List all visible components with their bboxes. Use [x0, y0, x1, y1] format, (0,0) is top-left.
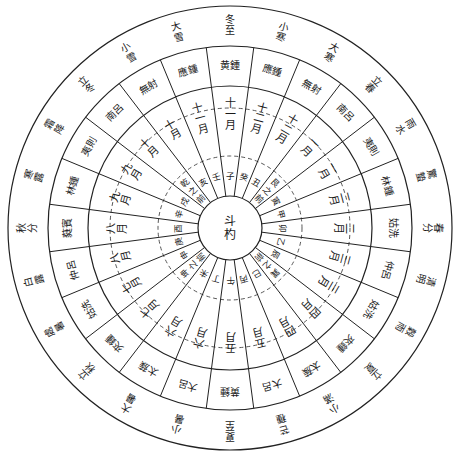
direction-label: 丁	[211, 273, 222, 285]
pitch-pipe-label: 應鍾	[176, 62, 198, 79]
month-label: 六月	[192, 325, 209, 351]
month-label-char: 月	[327, 249, 342, 263]
pitch-pipe-label: 夷則	[78, 135, 98, 158]
pitch-pipe-label-text: 林鍾	[64, 174, 81, 196]
solar-terms-wheel-diagram: 冬至小寒大寒立春雨水驚蟄春分清明穀雨立夏小滿芒種夏至小暑大暑立秋處暑白露秋分寒露…	[0, 0, 461, 455]
solar-term-label: 寒露	[21, 168, 46, 184]
month-label: 二月	[327, 190, 353, 207]
month-label-char: 月	[332, 223, 345, 234]
solar-term-label: 立夏	[362, 360, 385, 383]
month-label: 五月	[225, 330, 236, 354]
solar-term-label: 小滿	[322, 392, 342, 416]
pitch-pipe-label-text: 夾鍾	[103, 332, 126, 355]
solar-term-label-char: 寒	[275, 30, 288, 44]
direction-label-char: 卯	[278, 224, 288, 233]
pitch-pipe-label-text: 大呂	[176, 378, 198, 395]
pitch-pipe-label-text: 仲呂	[380, 259, 397, 281]
pitch-pipe-label-text: 南呂	[103, 101, 126, 124]
direction-label-char: 壬	[211, 171, 222, 183]
direction-label: 乙	[275, 236, 287, 247]
month-label-char: 月	[118, 193, 133, 207]
pitch-pipe-label: 黄鍾	[220, 59, 240, 71]
center-hub: 斗杓	[224, 214, 236, 242]
pitch-pipe-label-text: 大呂	[261, 378, 283, 395]
direction-label-char: 子	[226, 171, 235, 181]
pitch-pipe-label: 太蔟	[137, 359, 160, 379]
pitch-pipe-label-text: 南呂	[334, 101, 357, 124]
direction-label-char: 丙	[238, 273, 249, 285]
pitch-pipe-label: 夷則	[361, 135, 381, 158]
pitch-pipe-label-text: 夷則	[361, 135, 381, 158]
month-label: 一月	[315, 160, 341, 182]
solar-term-label: 秋分	[15, 223, 38, 233]
solar-term-label-char: 蟄	[414, 170, 428, 183]
direction-label: 卯	[278, 224, 288, 233]
month-label-char: 月	[116, 223, 129, 234]
solar-term-label: 冬至	[225, 13, 235, 36]
pitch-pipe-label: 仲呂	[64, 259, 81, 281]
pitch-pipe-label-text: 姑洗	[78, 298, 98, 321]
solar-term-label: 清明	[414, 273, 439, 289]
pitch-pipe-label-text: 夾鍾	[334, 332, 357, 355]
pitch-pipe-label: 姑洗	[361, 298, 381, 321]
solar-term-label: 立秋	[74, 360, 97, 383]
month-label: 十二月	[249, 99, 269, 137]
pitch-pipe-label: 大呂	[261, 378, 283, 395]
solar-term-label-char: 冬	[225, 13, 235, 25]
solar-term-label: 雨水	[394, 117, 418, 137]
direction-label-char: 辛	[173, 209, 185, 220]
month-label-char: 月	[249, 121, 263, 136]
solar-term-label: 霜降	[42, 117, 66, 137]
month-label: 四月	[276, 313, 298, 339]
month-label: 六月	[162, 313, 184, 339]
pitch-pipe-label-text: 姑洗	[361, 298, 381, 321]
solar-term-label-char: 秋	[15, 223, 27, 233]
month-label: 八月	[105, 223, 129, 234]
direction-label: 甲	[275, 209, 287, 220]
solar-term-label: 小寒	[275, 20, 290, 44]
month-label-char: 月	[197, 121, 211, 136]
solar-term-label-char: 分	[27, 223, 38, 233]
pitch-pipe-label: 仲呂	[380, 259, 397, 281]
pitch-pipe-label: 蕤賓	[61, 218, 73, 238]
direction-label: 午	[226, 276, 235, 286]
month-label-char: 月	[195, 325, 209, 340]
solar-term-label: 小雪	[119, 40, 139, 64]
pitch-pipe-label: 南呂	[103, 101, 126, 124]
pitch-pipe-label-text: 夷則	[78, 135, 98, 158]
solar-term-label-char: 露	[33, 273, 46, 286]
direction-label-char: 午	[226, 276, 235, 286]
pitch-pipe-label: 無射	[137, 76, 160, 96]
month-label: 十月	[162, 116, 184, 143]
direction-label-char: 甲	[275, 209, 287, 220]
solar-term-label: 大暑	[118, 392, 138, 417]
pitch-pipe-label-text: 姑洗	[388, 218, 400, 238]
month-label-char: 月	[118, 249, 133, 263]
solar-term-label-char: 春	[433, 223, 444, 233]
pitch-pipe-label: 林鍾	[64, 174, 81, 196]
pitch-pipe-label: 南呂	[334, 101, 357, 124]
solar-term-label-char: 夏	[225, 431, 235, 442]
pitch-pipe-label-text: 無射	[137, 76, 160, 96]
direction-label-char: 酉	[173, 224, 183, 233]
month-label-char: 月	[225, 330, 236, 343]
solar-term-label: 小暑	[170, 412, 185, 436]
solar-term-label-char: 暑	[173, 412, 186, 425]
center-label: 斗杓	[224, 214, 236, 242]
pitch-pipe-label-text: 應鍾	[176, 62, 198, 79]
pitch-pipe-label: 姑洗	[388, 218, 400, 238]
direction-label: 丙	[238, 273, 249, 285]
pitch-pipe-label-text: 黄鍾	[220, 386, 240, 398]
solar-term-label: 立春	[362, 72, 385, 95]
solar-term-label: 大雪	[170, 19, 186, 44]
direction-label: 癸	[238, 171, 249, 183]
month-label: 九月	[107, 190, 133, 207]
solar-term-label-char: 明	[414, 273, 427, 286]
direction-label-char: 癸	[238, 171, 249, 183]
pitch-pipe-label: 無射	[300, 76, 323, 96]
solar-term-label: 穀雨	[394, 320, 419, 340]
direction-label: 酉	[173, 224, 183, 233]
direction-label-char: 丁	[211, 273, 222, 285]
direction-label: 子	[226, 171, 235, 181]
month-label: 三月	[327, 249, 353, 266]
